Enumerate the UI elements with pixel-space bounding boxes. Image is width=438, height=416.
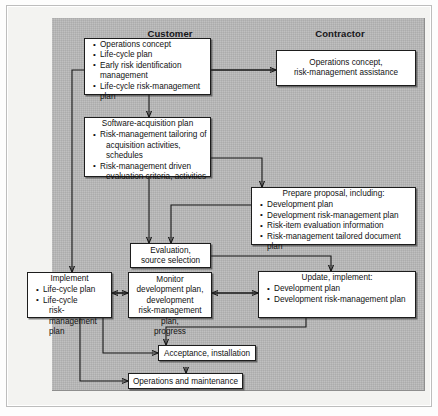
monitor-line2: development [129, 296, 211, 306]
list-item: Risk-management tailoring of acquisition… [94, 130, 207, 161]
list-item: Life-cycle plan [94, 50, 207, 60]
sap-item-1-line1: Risk-management driven [100, 162, 191, 171]
list-item: Risk-item evaluation information [261, 221, 412, 231]
sap-list: Risk-management tailoring of acquisition… [85, 129, 210, 184]
box-software-acquisition-plan[interactable]: Software-acquisition plan Risk-managemen… [84, 117, 211, 177]
list-item: Life-cycle risk-management plan [94, 82, 207, 103]
box-prepare-proposal[interactable]: Prepare proposal, including: Development… [251, 187, 416, 245]
implement-list: Life-cycle plan Life-cycle risk-manageme… [28, 284, 111, 339]
update-title: Update, implement: [259, 272, 415, 283]
figure-canvas: Customer Contractor [0, 0, 438, 416]
implement-item-1-line1: Life-cycle [43, 296, 78, 305]
list-item: Risk-management tailored document plan [261, 232, 412, 253]
box-evaluation-source-selection[interactable]: Evaluation, source selection [130, 243, 211, 268]
box-implement[interactable]: Implement Life-cycle plan Life-cycle ris… [27, 272, 112, 318]
sap-title: Software-acquisition plan [85, 118, 210, 129]
proposal-list: Development plan Development risk-manage… [252, 199, 415, 254]
list-item: Development risk-management plan [261, 211, 412, 221]
acceptance-label: Acceptance, installation [159, 349, 255, 359]
box-customer-concept[interactable]: Operations concept Life-cycle plan Early… [84, 38, 211, 95]
monitor-line1: Monitor development plan, [129, 275, 211, 296]
list-item: Early risk identification management [94, 61, 207, 82]
list-item: Life-cycle plan [37, 285, 108, 295]
contractor-concept-line2: risk-management assistance [277, 68, 415, 78]
implement-item-1-line2: risk-management plan [43, 306, 108, 337]
sap-item-1-line2: evaluation criteria, activities [100, 172, 207, 182]
list-item: Development plan [261, 200, 412, 210]
sap-item-0-line1: Risk-management tailoring of [100, 130, 207, 139]
evaluation-line2: source selection [131, 256, 210, 266]
box-operations-maintenance[interactable]: Operations and maintenance [128, 373, 243, 389]
proposal-title: Prepare proposal, including: [252, 188, 415, 199]
box-contractor-concept[interactable]: Operations concept, risk-management assi… [276, 50, 416, 86]
implement-title: Implement [28, 273, 111, 284]
list-item: Risk-management driven evaluation criter… [94, 162, 207, 183]
contractor-concept-line1: Operations concept, [277, 58, 415, 68]
box-update-implement[interactable]: Update, implement: Development plan Deve… [258, 271, 416, 318]
column-header-contractor: Contractor [300, 28, 380, 39]
box-monitor-development[interactable]: Monitor development plan, development ri… [128, 272, 212, 318]
monitor-line4: progress [129, 327, 211, 337]
monitor-line3: risk-management plan, [129, 306, 211, 327]
list-item: Operations concept [94, 40, 207, 50]
list-item: Life-cycle risk-management plan [37, 296, 108, 338]
customer-concept-list: Operations concept Life-cycle plan Early… [85, 39, 210, 104]
evaluation-line1: Evaluation, [131, 246, 210, 256]
list-item: Development risk-management plan [268, 295, 412, 305]
box-acceptance-installation[interactable]: Acceptance, installation [158, 345, 256, 361]
operations-label: Operations and maintenance [129, 377, 242, 387]
sap-item-0-line2: acquisition activities, schedules [100, 141, 207, 162]
update-list: Development plan Development risk-manage… [259, 283, 415, 307]
list-item: Development plan [268, 284, 412, 294]
